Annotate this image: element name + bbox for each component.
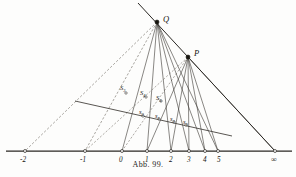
point-P-label: P xyxy=(193,48,199,58)
figure-caption: Abb. 99. xyxy=(0,160,296,169)
figure-container: -2-1012345∞ S3S4S5s0s1s2s3 QP Abb. 99. xyxy=(0,0,296,177)
transversal-label-S4: S4 xyxy=(140,89,146,98)
rays-from-Q-dashed xyxy=(25,22,157,151)
rays-from-P-dashed xyxy=(85,57,188,151)
point-Q-label: Q xyxy=(163,14,169,24)
rays-from-Q-solid xyxy=(122,22,218,151)
transversal-label-S3: S3 xyxy=(120,84,126,93)
transversal-label-S5: S5 xyxy=(156,94,162,103)
line-through-Q-and-P xyxy=(138,3,275,151)
figure-canvas: -2-1012345∞ S3S4S5s0s1s2s3 QP xyxy=(0,0,296,177)
